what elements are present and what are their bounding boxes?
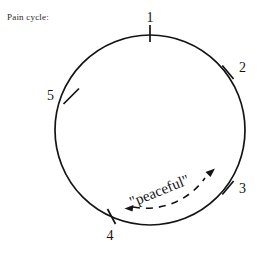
node-label-2: 2 [239, 60, 246, 75]
tick-mark-5 [64, 89, 80, 105]
pain-cycle-diagram: 1 2 3 4 5 "peaceful" [0, 0, 267, 258]
node-label-3: 3 [239, 181, 246, 196]
arrow-head-right-icon [206, 169, 216, 178]
diagram-canvas: Pain cycle: 1 2 3 4 5 "peaceful" [0, 0, 267, 258]
arc-annotation-label: "peaceful" [127, 171, 191, 209]
tick-mark-4 [108, 209, 116, 224]
node-label-1: 1 [147, 10, 154, 25]
node-label-5: 5 [47, 88, 54, 103]
node-label-4: 4 [107, 228, 114, 243]
